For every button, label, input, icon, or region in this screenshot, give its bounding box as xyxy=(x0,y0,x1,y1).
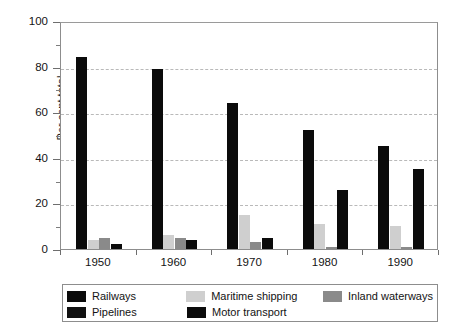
legend-swatch-motor-transport xyxy=(187,307,206,318)
bar-motor-1990 xyxy=(413,169,424,249)
y-axis-tick-label: 20 xyxy=(8,198,48,210)
bar-chart: Per cent total 020406080100 195019601970… xyxy=(0,0,458,333)
x-axis-tick xyxy=(438,250,439,255)
x-axis-tick-label: 1950 xyxy=(63,256,133,268)
bar-inland-1990 xyxy=(401,247,412,249)
bar-motor-1970 xyxy=(262,238,273,249)
legend-row: Pipelines Motor transport xyxy=(67,304,433,320)
legend-item-maritime-shipping: Maritime shipping xyxy=(186,288,323,304)
x-axis-tick xyxy=(362,250,363,255)
bar-railways-1950 xyxy=(76,57,87,249)
bar-inland-1960 xyxy=(175,238,186,249)
y-axis-tick xyxy=(53,68,60,69)
plot-area xyxy=(60,22,438,250)
bar-inland-1970 xyxy=(250,242,261,249)
legend-swatch-pipelines xyxy=(67,307,86,318)
legend-swatch-maritime-shipping xyxy=(186,291,205,302)
bar-inland-1950 xyxy=(99,238,110,249)
legend-label: Inland waterways xyxy=(348,290,433,302)
bar-maritime-1970 xyxy=(239,215,250,249)
y-axis-tick xyxy=(53,22,60,23)
x-axis-tick-label: 1990 xyxy=(365,256,435,268)
legend-item-spacer xyxy=(325,304,433,320)
y-axis-tick-label: 100 xyxy=(8,16,48,28)
x-axis-tick-label: 1980 xyxy=(290,256,360,268)
bar-railways-1980 xyxy=(303,130,314,249)
legend-label: Railways xyxy=(92,290,136,302)
bar-series-layer xyxy=(61,23,437,249)
bar-railways-1970 xyxy=(227,103,238,249)
legend-item-pipelines: Pipelines xyxy=(67,304,187,320)
legend-item-motor-transport: Motor transport xyxy=(187,304,325,320)
y-axis-tick-label: 80 xyxy=(8,62,48,74)
y-axis-tick-label: 40 xyxy=(8,153,48,165)
x-axis-tick xyxy=(211,250,212,255)
x-axis-tick xyxy=(136,250,137,255)
legend-label: Maritime shipping xyxy=(211,290,297,302)
legend-swatch-railways xyxy=(67,291,86,302)
x-axis-tick xyxy=(60,250,61,255)
bar-maritime-1980 xyxy=(314,224,325,249)
bar-motor-1960 xyxy=(186,240,197,249)
legend-row: Railways Maritime shipping Inland waterw… xyxy=(67,288,433,304)
bar-motor-1950 xyxy=(111,244,122,249)
y-axis-tick xyxy=(53,204,60,205)
bar-railways-1990 xyxy=(378,146,389,249)
x-axis-tick-label: 1960 xyxy=(138,256,208,268)
legend-item-railways: Railways xyxy=(67,288,186,304)
x-axis-tick xyxy=(287,250,288,255)
y-axis-tick xyxy=(53,159,60,160)
bar-maritime-1990 xyxy=(390,226,401,249)
bar-railways-1960 xyxy=(152,69,163,249)
bar-motor-1980 xyxy=(337,190,348,249)
y-axis-tick xyxy=(53,113,60,114)
legend-swatch-inland-waterways xyxy=(323,291,342,302)
bar-inland-1980 xyxy=(326,247,337,249)
y-axis-tick-label: 60 xyxy=(8,107,48,119)
bar-maritime-1960 xyxy=(163,235,174,249)
legend-label: Pipelines xyxy=(92,306,137,318)
legend-item-inland-waterways: Inland waterways xyxy=(323,288,433,304)
bar-maritime-1950 xyxy=(88,240,99,249)
chart-legend: Railways Maritime shipping Inland waterw… xyxy=(62,284,438,322)
legend-label: Motor transport xyxy=(212,306,287,318)
y-axis-tick xyxy=(53,250,60,251)
x-axis-tick-label: 1970 xyxy=(214,256,284,268)
y-axis-tick-label: 0 xyxy=(8,244,48,256)
